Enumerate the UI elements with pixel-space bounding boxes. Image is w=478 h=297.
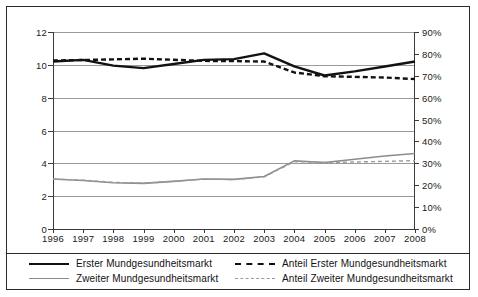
left-axis-label: 6 bbox=[7, 125, 47, 136]
series-line bbox=[53, 153, 415, 183]
left-axis-label: 10 bbox=[7, 59, 47, 70]
x-axis-label: 2002 bbox=[223, 233, 245, 244]
series-line bbox=[53, 53, 415, 75]
left-axis-label: 8 bbox=[7, 92, 47, 103]
x-axis-label: 2000 bbox=[163, 233, 185, 244]
chart-frame: 024681012 0%10%20%30%40%50%60%70%80%90% … bbox=[6, 6, 470, 290]
x-axis-label: 2001 bbox=[193, 233, 215, 244]
x-axis-label: 2007 bbox=[374, 233, 396, 244]
right-axis-label: 60% bbox=[422, 92, 464, 103]
right-axis-label: 50% bbox=[422, 114, 464, 125]
x-axis-label: 2003 bbox=[253, 233, 275, 244]
legend-label: Anteil Zweiter Mundgesundheitsmarkt bbox=[282, 273, 453, 284]
chart-legend: Erster MundgesundheitsmarktZweiter Mundg… bbox=[7, 253, 469, 289]
x-axis-label: 1998 bbox=[102, 233, 124, 244]
left-axis-label: 12 bbox=[7, 27, 47, 38]
x-axis-label: 2006 bbox=[344, 233, 366, 244]
legend-item[interactable]: Anteil Erster Mundgesundheitsmarkt bbox=[235, 256, 447, 271]
legend-swatch-icon bbox=[29, 259, 69, 269]
legend-label: Erster Mundgesundheitsmarkt bbox=[76, 258, 212, 269]
x-axis-label: 2005 bbox=[314, 233, 336, 244]
legend-swatch-icon bbox=[235, 274, 275, 284]
x-axis-label: 2008 bbox=[404, 233, 426, 244]
plot-area: 024681012 0%10%20%30%40%50%60%70%80%90% … bbox=[53, 32, 415, 229]
right-axis-label: 30% bbox=[422, 158, 464, 169]
right-axis-label: 40% bbox=[422, 136, 464, 147]
left-axis-label: 4 bbox=[7, 158, 47, 169]
x-axis-label: 1999 bbox=[133, 233, 155, 244]
legend-label: Anteil Erster Mundgesundheitsmarkt bbox=[282, 258, 447, 269]
series-lines bbox=[53, 32, 415, 229]
legend-item[interactable]: Anteil Zweiter Mundgesundheitsmarkt bbox=[235, 271, 453, 286]
right-axis-label: 70% bbox=[422, 70, 464, 81]
right-axis-label: 90% bbox=[422, 27, 464, 38]
left-axis-label: 2 bbox=[7, 191, 47, 202]
legend-item[interactable]: Erster Mundgesundheitsmarkt bbox=[29, 256, 212, 271]
left-axis-label: 0 bbox=[7, 224, 47, 235]
plot-area-wrapper: 024681012 0%10%20%30%40%50%60%70%80%90% … bbox=[7, 7, 469, 250]
legend-swatch-icon bbox=[29, 274, 69, 284]
right-axis-label: 20% bbox=[422, 180, 464, 191]
right-axis-label: 0% bbox=[422, 224, 464, 235]
right-axis-label: 10% bbox=[422, 202, 464, 213]
x-axis-label: 1997 bbox=[72, 233, 94, 244]
legend-swatch-icon bbox=[235, 259, 275, 269]
x-axis-label: 2004 bbox=[283, 233, 305, 244]
legend-item[interactable]: Zweiter Mundgesundheitsmarkt bbox=[29, 271, 218, 286]
legend-label: Zweiter Mundgesundheitsmarkt bbox=[76, 273, 218, 284]
series-line bbox=[53, 59, 415, 79]
right-axis-label: 80% bbox=[422, 48, 464, 59]
x-axis-label: 1996 bbox=[42, 233, 64, 244]
